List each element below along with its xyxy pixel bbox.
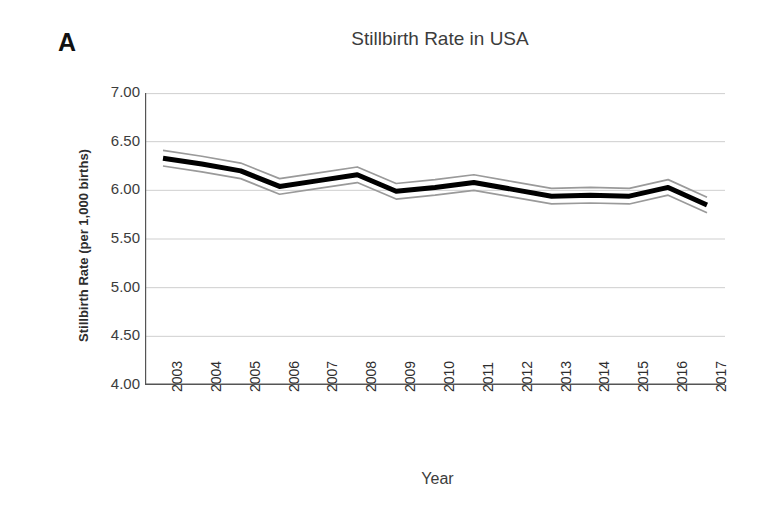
y-tick-label: 5.00 [86, 278, 140, 295]
y-tick-label: 5.50 [86, 229, 140, 246]
y-tick-label: 7.00 [86, 83, 140, 100]
figure-panel: A Stillbirth Rate in USA Stillbirth Rate… [0, 0, 771, 518]
y-tick-label: 6.00 [86, 180, 140, 197]
gridlines [145, 94, 725, 337]
panel-label-a: A [58, 28, 76, 57]
chart-title: Stillbirth Rate in USA [150, 28, 730, 50]
plot-area [145, 93, 725, 385]
y-tick-label: 4.50 [86, 326, 140, 343]
x-axis-title: Year [150, 470, 725, 488]
series-lines [163, 150, 707, 212]
y-tick-label: 6.50 [86, 132, 140, 149]
y-tick-label: 4.00 [86, 375, 140, 392]
line-chart-svg [145, 93, 725, 385]
